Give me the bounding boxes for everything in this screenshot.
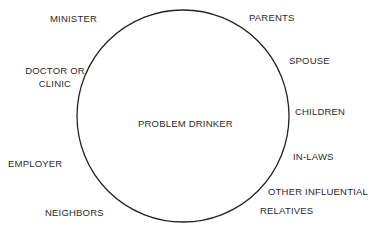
label-doctor-line1: DOCTOR OR bbox=[22, 64, 88, 77]
label-doctor-or-clinic: DOCTOR OR CLINIC bbox=[22, 64, 88, 90]
label-parents: PARENTS bbox=[249, 11, 295, 24]
label-neighbors: NEIGHBORS bbox=[45, 206, 104, 219]
center-label-problem-drinker: PROBLEM DRINKER bbox=[138, 117, 233, 130]
label-spouse: SPOUSE bbox=[289, 54, 330, 67]
problem-drinker-circle bbox=[77, 10, 289, 222]
label-doctor-line2: CLINIC bbox=[22, 77, 88, 90]
label-minister: MINISTER bbox=[50, 12, 97, 25]
label-relatives: RELATIVES bbox=[260, 204, 313, 217]
label-in-laws: IN-LAWS bbox=[293, 150, 334, 163]
label-other-influential: OTHER INFLUENTIAL bbox=[268, 185, 368, 198]
label-children: CHILDREN bbox=[295, 105, 345, 118]
label-employer: EMPLOYER bbox=[8, 157, 62, 170]
